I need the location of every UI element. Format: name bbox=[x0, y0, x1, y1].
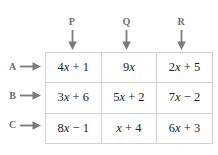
row-header-a: A bbox=[8, 52, 44, 81]
expression: 8x − 1 bbox=[58, 122, 89, 135]
row-header-label: C bbox=[8, 120, 17, 130]
worksheet-table-figure: P Q R A B C bbox=[0, 0, 218, 155]
table-row: 8x − 1 x + 4 6x + 3 bbox=[46, 113, 213, 143]
row-header-b: B bbox=[8, 81, 44, 110]
expression: 7x − 2 bbox=[169, 91, 200, 104]
right-arrow-icon bbox=[20, 121, 41, 130]
expression: 9x bbox=[123, 61, 135, 74]
expression-grid: 4x + 1 9x 2x + 5 3x + 6 5x + 2 7x − 2 bbox=[45, 52, 213, 144]
expression: 5x + 2 bbox=[113, 91, 144, 104]
column-header-q: Q bbox=[100, 16, 154, 50]
cell-a-p: 4x + 1 bbox=[46, 53, 102, 83]
expression: 3x + 6 bbox=[58, 91, 89, 104]
expression: 2x + 5 bbox=[169, 61, 200, 74]
cell-c-p: 8x − 1 bbox=[46, 113, 102, 143]
column-header-label: Q bbox=[100, 16, 154, 27]
right-arrow-icon bbox=[20, 62, 41, 71]
table-row: 3x + 6 5x + 2 7x − 2 bbox=[46, 83, 213, 113]
down-arrow-icon bbox=[177, 30, 186, 50]
column-header-label: P bbox=[45, 16, 99, 27]
right-arrow-icon bbox=[20, 91, 41, 100]
row-header-label: A bbox=[8, 62, 17, 72]
cell-b-r: 7x − 2 bbox=[157, 83, 213, 113]
column-header-label: R bbox=[154, 16, 208, 27]
cell-c-q: x + 4 bbox=[101, 113, 157, 143]
column-header-p: P bbox=[45, 16, 99, 50]
cell-c-r: 6x + 3 bbox=[157, 113, 213, 143]
cell-b-q: 5x + 2 bbox=[101, 83, 157, 113]
expression: x + 4 bbox=[116, 122, 141, 135]
row-header-c: C bbox=[8, 111, 44, 140]
cell-b-p: 3x + 6 bbox=[46, 83, 102, 113]
cell-a-q: 9x bbox=[101, 53, 157, 83]
down-arrow-icon bbox=[122, 30, 131, 50]
table-row: 4x + 1 9x 2x + 5 bbox=[46, 53, 213, 83]
column-header-r: R bbox=[154, 16, 208, 50]
down-arrow-icon bbox=[68, 30, 77, 50]
expression: 6x + 3 bbox=[169, 122, 200, 135]
expression: 4x + 1 bbox=[58, 61, 89, 74]
cell-a-r: 2x + 5 bbox=[157, 53, 213, 83]
row-header-label: B bbox=[8, 91, 17, 101]
